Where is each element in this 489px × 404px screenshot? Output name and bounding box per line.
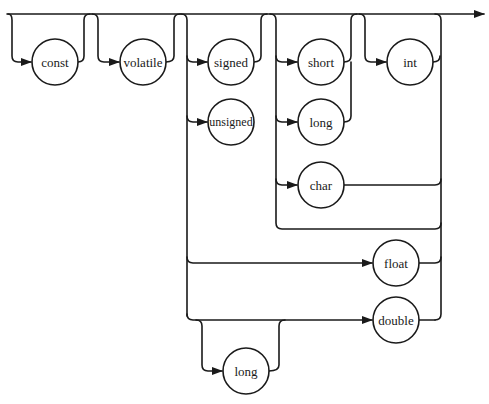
node-char: char bbox=[298, 162, 344, 208]
svg-text:int: int bbox=[403, 55, 417, 70]
node-const: const bbox=[32, 39, 78, 85]
node-signed: signed bbox=[208, 39, 254, 85]
svg-text:float: float bbox=[384, 256, 408, 271]
syntax-diagram: const volatile signed unsigned short lon… bbox=[0, 0, 489, 404]
svg-text:double: double bbox=[378, 313, 414, 328]
node-float: float bbox=[373, 240, 419, 286]
node-unsigned: unsigned bbox=[208, 99, 254, 145]
svg-text:unsigned: unsigned bbox=[209, 115, 252, 129]
svg-text:const: const bbox=[41, 55, 69, 70]
svg-text:short: short bbox=[308, 55, 334, 70]
node-double: double bbox=[373, 297, 419, 343]
node-long-size: long bbox=[298, 99, 344, 145]
node-long-double: long bbox=[223, 348, 269, 394]
svg-text:char: char bbox=[310, 178, 333, 193]
node-int: int bbox=[387, 39, 433, 85]
node-volatile: volatile bbox=[120, 39, 166, 85]
svg-text:signed: signed bbox=[214, 55, 248, 70]
svg-text:volatile: volatile bbox=[124, 55, 163, 70]
svg-text:long: long bbox=[234, 364, 258, 379]
node-short: short bbox=[298, 39, 344, 85]
svg-text:long: long bbox=[309, 115, 333, 130]
